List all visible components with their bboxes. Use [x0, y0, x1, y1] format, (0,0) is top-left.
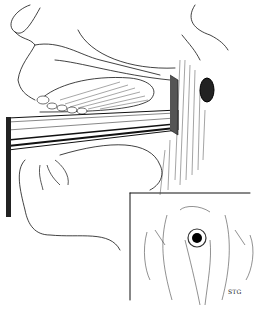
artist-signature: STG [228, 288, 242, 295]
instrument-tube [6, 75, 178, 217]
anatomical-illustration [0, 0, 264, 318]
